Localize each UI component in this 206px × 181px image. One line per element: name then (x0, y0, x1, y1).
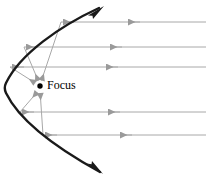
focus-label: Focus (47, 79, 76, 91)
focus-point-dot (37, 83, 42, 88)
parabola-bottom-arrowhead-icon (87, 161, 103, 174)
reflected-ray-5 (40, 93, 43, 135)
reflected-ray-4 (20, 92, 37, 112)
diagram-canvas (0, 0, 206, 181)
parabolic-reflector-figure: Focus (0, 0, 206, 181)
incoming-rays-group (10, 22, 206, 135)
